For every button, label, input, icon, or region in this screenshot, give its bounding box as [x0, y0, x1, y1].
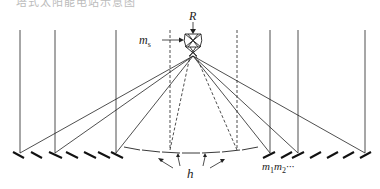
secondary-mirror-arc — [124, 147, 258, 153]
receiver-label: R — [189, 9, 196, 24]
receiver-tower — [184, 34, 202, 56]
secondary-mirror-label: ms — [139, 33, 151, 49]
heliostat-label: m1m2··· — [262, 160, 294, 175]
reflected-rays — [20, 56, 365, 153]
dashed-rays — [170, 30, 237, 150]
solar-tower-diagram — [0, 0, 380, 189]
incident-sun-rays — [20, 30, 365, 153]
height-label: h — [187, 166, 194, 182]
